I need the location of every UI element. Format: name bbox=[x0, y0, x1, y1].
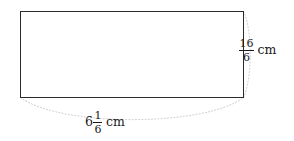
width-denominator: 6 bbox=[94, 123, 102, 135]
rectangle-diagram-canvas bbox=[0, 0, 294, 141]
height-numerator: 16 bbox=[239, 38, 254, 50]
geometry-figure: 16 6 cm 6 1 6 cm bbox=[0, 0, 294, 141]
height-denominator: 6 bbox=[243, 51, 251, 63]
width-unit: cm bbox=[102, 116, 124, 129]
height-unit: cm bbox=[254, 44, 276, 57]
width-measure-arc bbox=[21, 98, 244, 120]
height-fraction: 16 6 bbox=[239, 38, 254, 63]
height-label: 16 6 cm bbox=[239, 38, 276, 63]
width-whole-number: 6 bbox=[85, 116, 93, 129]
width-numerator: 1 bbox=[94, 110, 102, 122]
width-fraction: 1 6 bbox=[93, 110, 102, 135]
rectangle-outline bbox=[21, 12, 244, 98]
width-label: 6 1 6 cm bbox=[85, 110, 125, 135]
